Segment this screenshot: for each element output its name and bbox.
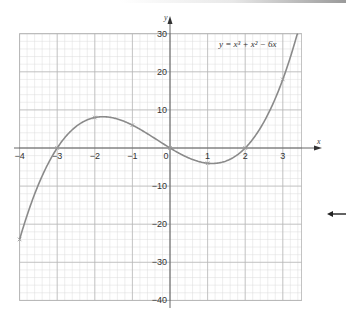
equation-label: y = x³ + x² − 6x xyxy=(218,39,277,49)
y-tick-label: −30 xyxy=(152,257,167,267)
x-tick-label: 3 xyxy=(280,151,285,161)
axes xyxy=(14,16,322,308)
x-axis-label: x xyxy=(316,137,321,146)
cubic-graph: −4−3−2−10123302010−10−20−30−40 y = x³ + … xyxy=(0,0,346,309)
curve-line xyxy=(20,34,298,240)
x-tick-label: 2 xyxy=(243,151,248,161)
y-tick-label: 10 xyxy=(157,105,167,115)
x-tick-label: 1 xyxy=(205,151,210,161)
x-tick-label: −2 xyxy=(90,151,100,161)
y-tick-label: −40 xyxy=(152,295,167,305)
y-axis-label: y xyxy=(163,13,168,22)
x-tick-label: −4 xyxy=(14,151,24,161)
x-tick-label: 0 xyxy=(163,151,168,161)
left-arrow-icon xyxy=(327,211,346,217)
tick-labels: −4−3−2−10123302010−10−20−30−40 xyxy=(14,29,285,306)
y-tick-label: −10 xyxy=(152,181,167,191)
y-tick-label: −20 xyxy=(152,219,167,229)
y-tick-label: 20 xyxy=(157,67,167,77)
x-tick-label: −1 xyxy=(127,151,137,161)
y-tick-label: 30 xyxy=(157,29,167,39)
